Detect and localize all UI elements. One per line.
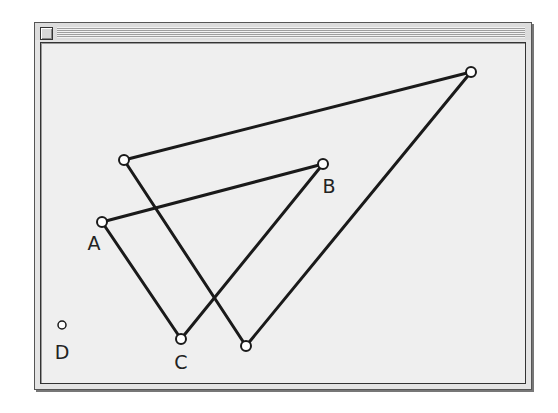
segment-C-A[interactable] [102, 222, 181, 339]
point-B[interactable] [318, 159, 328, 169]
segment-A-B[interactable] [102, 164, 323, 222]
point-C[interactable] [176, 334, 186, 344]
point-A[interactable] [97, 217, 107, 227]
point-D[interactable] [58, 321, 66, 329]
point-P1[interactable] [119, 155, 129, 165]
segment-P2-P3[interactable] [246, 72, 471, 346]
point-label-A: A [88, 232, 101, 254]
segment-P1-P2[interactable] [124, 72, 471, 160]
point-label-D: D [55, 341, 70, 363]
point-P2[interactable] [466, 67, 476, 77]
point-label-B: B [322, 175, 335, 197]
point-P3[interactable] [241, 341, 251, 351]
segment-B-C[interactable] [181, 164, 323, 339]
geometry-canvas[interactable]: ABCD [0, 0, 558, 413]
point-label-C: C [174, 351, 187, 373]
